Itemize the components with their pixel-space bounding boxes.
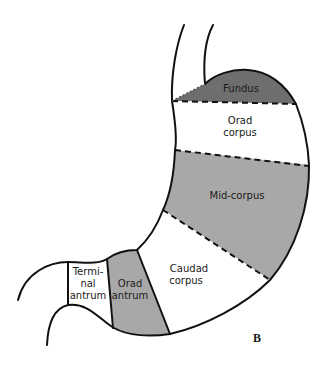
esophagus-right-outline — [204, 25, 213, 84]
label-terminal-antrum-line1: Termi- — [72, 266, 104, 277]
label-mid-corpus: Mid-corpus — [210, 190, 265, 201]
label-fundus: Fundus — [223, 83, 259, 94]
label-orad-corpus-line1: Orad — [228, 115, 252, 126]
stomach-diagram: Fundus Orad corpus Mid-corpus Caudad cor… — [0, 0, 327, 373]
label-orad-antrum-line2: antrum — [112, 290, 149, 301]
label-terminal-antrum-line3: antrum — [70, 290, 107, 301]
label-terminal-antrum-line2: nal — [80, 278, 95, 289]
label-orad-corpus-line2: corpus — [223, 127, 257, 138]
panel-letter: B — [253, 331, 261, 345]
label-caudad-corpus-line1: Caudad — [170, 263, 208, 274]
label-caudad-corpus-line2: corpus — [169, 275, 203, 286]
label-orad-antrum-line1: Orad — [118, 278, 142, 289]
